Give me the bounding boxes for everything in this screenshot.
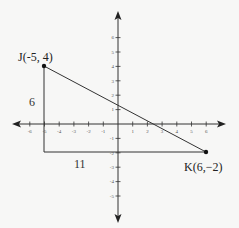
vertical-leg-length-label: 6	[29, 95, 35, 109]
y-tick-label: 1	[112, 107, 115, 112]
x-tick-label: -4	[57, 129, 62, 134]
x-tick-label: 2	[146, 129, 149, 134]
x-tick-label: -3	[72, 129, 77, 134]
y-tick-label: -2	[110, 151, 115, 156]
y-tick-label: 2	[112, 93, 115, 98]
hypotenuse-jk	[44, 66, 206, 152]
y-tick-label: 6	[112, 35, 115, 40]
coordinate-plane-diagram: -6-5-4-3-2-1123456 654321-1-2-3-4-5 J(-5…	[0, 0, 239, 228]
y-tick-label: 3	[112, 79, 115, 84]
y-tick-label: 4	[112, 64, 115, 69]
point-k-dot	[204, 150, 208, 154]
x-tick-label: -2	[87, 129, 92, 134]
x-tick-label: 4	[176, 129, 179, 134]
horizontal-leg-length-label: 11	[74, 157, 86, 171]
point-j-dot	[42, 64, 46, 68]
coordinate-plane-svg: -6-5-4-3-2-1123456 654321-1-2-3-4-5 J(-5…	[0, 0, 239, 228]
point-k-label: K(6,−2)	[184, 160, 222, 174]
y-tick-label: -3	[110, 165, 115, 170]
y-tick-label: 5	[112, 50, 115, 55]
x-tick-label: -6	[28, 129, 33, 134]
x-tick-label: -1	[101, 129, 106, 134]
right-triangle	[42, 64, 208, 154]
y-tick-label: -4	[110, 179, 115, 184]
x-tick-label: -5	[42, 129, 47, 134]
y-axis: 654321-1-2-3-4-5	[110, 11, 122, 223]
point-j-label: J(-5, 4)	[18, 50, 53, 64]
x-tick-label: 5	[190, 129, 193, 134]
x-tick-label: 6	[205, 129, 208, 134]
x-tick-label: 1	[131, 129, 134, 134]
y-tick-label: -1	[110, 136, 115, 141]
y-tick-label: -5	[110, 194, 115, 199]
